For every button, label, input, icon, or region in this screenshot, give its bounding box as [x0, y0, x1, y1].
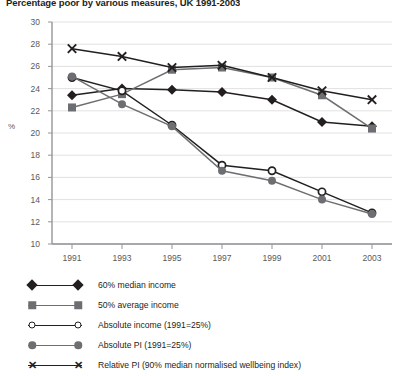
- legend-item[interactable]: Absolute PI (1991=25%): [24, 336, 191, 354]
- y-axis-tick-label: 16: [18, 173, 40, 182]
- legend-marker-sample: [24, 317, 86, 333]
- filled-circle-marker-icon: [74, 341, 82, 349]
- data-point-marker: [68, 72, 76, 80]
- legend-marker-sample: [24, 297, 86, 313]
- legend-item-label: 50% average income: [98, 300, 179, 310]
- data-point-marker: [368, 210, 376, 218]
- data-point-marker: [318, 188, 325, 195]
- data-point-marker: [118, 100, 126, 108]
- data-point-marker: [218, 167, 226, 175]
- data-point-marker: [318, 196, 326, 204]
- y-axis-tick-label: 18: [18, 151, 40, 160]
- data-point-marker: [68, 103, 76, 111]
- data-point-marker: [67, 90, 77, 100]
- data-point-marker: [168, 122, 176, 130]
- diamond-marker-icon: [26, 279, 37, 290]
- x-axis-tick-label: 1995: [152, 254, 192, 263]
- legend-item[interactable]: 60% median income: [24, 276, 176, 294]
- y-axis-tick-label: 14: [18, 196, 40, 205]
- y-axis-tick-label: 24: [18, 85, 40, 94]
- y-axis-tick-label: 28: [18, 40, 40, 49]
- legend-item-label: Relative PI (90% median normalised wellb…: [98, 360, 301, 370]
- y-axis-tick-label: 12: [18, 218, 40, 227]
- legend-item[interactable]: 50% average income: [24, 296, 179, 314]
- data-point-marker: [268, 167, 275, 174]
- chart-svg: [0, 0, 406, 270]
- x-axis-tick-label: 1999: [252, 254, 292, 263]
- y-axis-tick-label: 30: [18, 18, 40, 27]
- chart-legend: 60% median income50% average incomeAbsol…: [0, 276, 406, 376]
- x-axis-tick-label: 1993: [102, 254, 142, 263]
- filled-circle-marker-icon: [28, 341, 36, 349]
- y-axis-tick-label: 22: [18, 107, 40, 116]
- x-axis-tick-label: 2003: [352, 254, 392, 263]
- legend-item-label: Absolute income (1991=25%): [98, 320, 211, 330]
- legend-marker-sample: [24, 337, 86, 353]
- x-axis-tick-label: 1991: [52, 254, 92, 263]
- legend-marker-sample: ✕✕: [24, 357, 86, 373]
- legend-item-label: Absolute PI (1991=25%): [98, 340, 191, 350]
- data-point-marker: [268, 177, 276, 185]
- x-axis-tick-label: 2001: [302, 254, 342, 263]
- data-line: [72, 68, 372, 129]
- data-point-marker: [118, 87, 125, 94]
- data-point-marker: [167, 85, 177, 95]
- legend-item[interactable]: ✕✕Relative PI (90% median normalised wel…: [24, 356, 301, 374]
- legend-item-label: 60% median income: [98, 280, 176, 290]
- legend-marker-sample: [24, 277, 86, 293]
- square-marker-icon: [74, 301, 82, 309]
- chart-plot-area: 1012141618202224262830199119931995199719…: [0, 0, 406, 270]
- x-axis-tick-label: 1997: [202, 254, 242, 263]
- data-point-marker: [317, 117, 327, 127]
- legend-item[interactable]: Absolute income (1991=25%): [24, 316, 211, 334]
- y-axis-tick-label: 20: [18, 129, 40, 138]
- diamond-marker-icon: [72, 279, 83, 290]
- data-point-marker: [267, 95, 277, 105]
- y-axis-tick-label: 26: [18, 62, 40, 71]
- y-axis-tick-label: 10: [18, 240, 40, 249]
- square-marker-icon: [28, 301, 36, 309]
- data-point-marker: [368, 125, 376, 133]
- data-series: [67, 84, 377, 132]
- open-circle-marker-icon: [29, 322, 36, 329]
- open-circle-marker-icon: [75, 322, 82, 329]
